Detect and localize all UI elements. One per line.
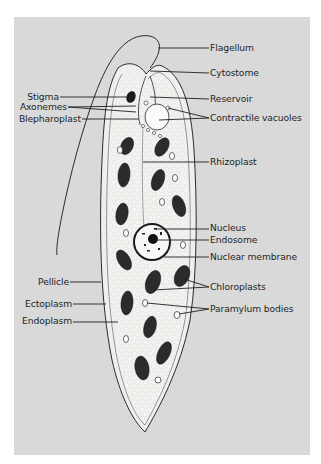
label-blepharoplast: Blepharoplast bbox=[19, 114, 81, 124]
contractile-vacuole-shape bbox=[145, 104, 169, 130]
label-nucleus: Nucleus bbox=[210, 223, 246, 233]
label-cytostome: Cytostome bbox=[210, 68, 259, 78]
label-pellicle: Pellicle bbox=[38, 277, 69, 287]
label-reservoir: Reservoir bbox=[210, 94, 252, 104]
label-paramylum-bodies: Paramylum bodies bbox=[210, 304, 293, 314]
euglena-diagram bbox=[0, 0, 321, 464]
label-endoplasm: Endoplasm bbox=[22, 316, 72, 326]
endosome-shape bbox=[148, 234, 158, 244]
label-ectoplasm: Ectoplasm bbox=[25, 299, 72, 309]
label-flagellum: Flagellum bbox=[210, 43, 254, 53]
label-axonemes: Axonemes bbox=[20, 102, 67, 112]
label-nuclear-membrane: Nuclear membrane bbox=[210, 252, 297, 262]
label-contractile-vacuoles: Contractile vacuoles bbox=[210, 113, 302, 123]
label-rhizoplast: Rhizoplast bbox=[210, 157, 257, 167]
label-chloroplasts: Chloroplasts bbox=[210, 282, 266, 292]
label-endosome: Endosome bbox=[210, 235, 257, 245]
